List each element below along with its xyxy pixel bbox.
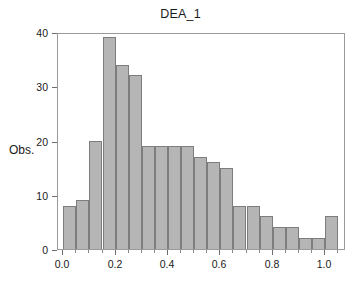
x-tick-minor-mark xyxy=(259,250,260,253)
histogram-bar xyxy=(299,238,312,249)
x-tick-label: 0.8 xyxy=(265,258,280,270)
bars-layer xyxy=(58,34,344,249)
histogram-bar xyxy=(247,206,260,249)
x-tick-minor-mark xyxy=(102,250,103,253)
x-tick-minor-mark xyxy=(75,250,76,253)
histogram-bar xyxy=(273,227,286,249)
plot-area xyxy=(57,33,345,250)
histogram-bar xyxy=(76,200,89,249)
histogram-bar xyxy=(89,141,102,250)
x-tick-minor-mark xyxy=(180,250,181,253)
histogram-bar xyxy=(312,238,325,249)
y-tick-mark xyxy=(52,142,57,143)
y-tick-label: 0 xyxy=(42,244,48,256)
x-tick-minor-mark xyxy=(232,250,233,253)
x-tick-minor-mark xyxy=(298,250,299,253)
x-tick-minor-mark xyxy=(285,250,286,253)
histogram-bar xyxy=(233,206,246,249)
x-tick-minor-mark xyxy=(88,250,89,253)
y-tick-mark xyxy=(52,196,57,197)
x-tick-minor-mark xyxy=(337,250,338,253)
x-tick-mark xyxy=(167,250,168,255)
x-tick-minor-mark xyxy=(154,250,155,253)
x-tick-minor-mark xyxy=(128,250,129,253)
x-tick-label: 0.0 xyxy=(55,258,70,270)
histogram-bar xyxy=(168,146,181,249)
x-tick-minor-mark xyxy=(206,250,207,253)
histogram-chart: DEA_1 Obs. 0102030400.00.20.40.60.81.0 xyxy=(0,0,361,287)
x-tick-label: 0.6 xyxy=(212,258,227,270)
histogram-bar xyxy=(207,162,220,249)
histogram-bar xyxy=(325,216,338,249)
histogram-bar xyxy=(286,227,299,249)
x-tick-minor-mark xyxy=(193,250,194,253)
y-tick-label: 10 xyxy=(36,190,48,202)
histogram-bar xyxy=(142,146,155,249)
x-tick-minor-mark xyxy=(246,250,247,253)
x-tick-label: 0.4 xyxy=(160,258,175,270)
x-tick-label: 1.0 xyxy=(317,258,332,270)
histogram-bar xyxy=(260,216,273,249)
x-tick-label: 0.2 xyxy=(108,258,123,270)
histogram-bar xyxy=(155,146,168,249)
histogram-bar xyxy=(116,65,129,249)
y-tick-mark xyxy=(52,250,57,251)
histogram-bar xyxy=(103,37,116,249)
x-tick-minor-mark xyxy=(311,250,312,253)
x-tick-mark xyxy=(62,250,63,255)
x-tick-mark xyxy=(115,250,116,255)
x-tick-mark xyxy=(272,250,273,255)
histogram-bar xyxy=(181,146,194,249)
y-tick-label: 30 xyxy=(36,81,48,93)
x-tick-mark xyxy=(219,250,220,255)
y-tick-label: 40 xyxy=(36,27,48,39)
y-tick-mark xyxy=(52,33,57,34)
y-tick-label: 20 xyxy=(36,136,48,148)
histogram-bar xyxy=(194,157,207,249)
x-tick-minor-mark xyxy=(141,250,142,253)
y-tick-mark xyxy=(52,87,57,88)
y-axis-label: Obs. xyxy=(9,143,34,157)
chart-title: DEA_1 xyxy=(0,7,361,21)
histogram-bar xyxy=(220,168,233,249)
histogram-bar xyxy=(129,75,142,249)
histogram-bar xyxy=(63,206,76,249)
x-tick-mark xyxy=(324,250,325,255)
